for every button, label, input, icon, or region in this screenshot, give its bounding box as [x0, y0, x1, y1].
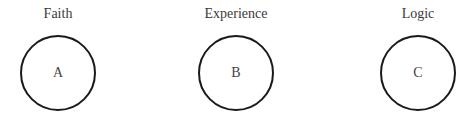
node-letter: B [231, 65, 240, 81]
node-letter: A [53, 65, 63, 81]
node-title: Logic [358, 6, 473, 22]
circle-a: A [20, 35, 96, 111]
node-letter: C [413, 65, 422, 81]
node-title: Faith [0, 6, 118, 22]
circle-c: C [380, 35, 456, 111]
node-title: Experience [176, 6, 296, 22]
circle-b: B [198, 35, 274, 111]
